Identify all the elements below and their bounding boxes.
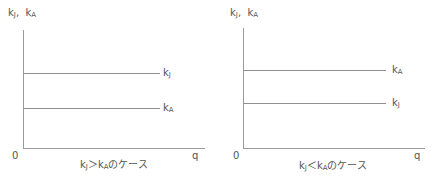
panel-kj-greater: kJ, kA kJ kA 0 q kJ＞kAのケース: [0, 0, 217, 183]
y-axis: [23, 30, 24, 149]
kj-line: [23, 73, 160, 74]
y-axis-label: kJ, kA: [8, 8, 36, 19]
y-axis-label: kJ, kA: [230, 8, 258, 19]
caption-tail: のケース: [327, 160, 367, 171]
origin-label: 0: [12, 151, 18, 161]
x-axis: [23, 148, 205, 149]
lower-line-label: kJ: [392, 98, 400, 109]
kj-line: [243, 103, 386, 104]
panel-caption: kJ＞kAのケース: [80, 160, 148, 171]
origin-label: 0: [233, 151, 239, 161]
caption-operator: ＜: [307, 160, 317, 171]
panel-caption: kJ＜kAのケース: [299, 161, 367, 172]
lower-label-sub: J: [398, 101, 400, 109]
x-axis-label: q: [414, 151, 420, 161]
caption-tail: のケース: [108, 159, 148, 170]
ka-line: [23, 108, 160, 109]
y-label-sub2: A: [253, 11, 258, 19]
panel-kj-less: kJ, kA kA kJ 0 q kJ＜kAのケース: [217, 0, 434, 183]
upper-line-label: kA: [392, 65, 403, 76]
lower-label-sub: A: [169, 106, 174, 114]
upper-label-sub: J: [169, 71, 171, 79]
y-axis: [243, 28, 244, 149]
caption-operator: ＞: [88, 159, 98, 170]
x-axis-label: q: [192, 151, 198, 161]
upper-line-label: kJ: [163, 68, 171, 79]
lower-line-label: kA: [163, 103, 174, 114]
upper-label-sub: A: [398, 68, 403, 76]
ka-line: [243, 70, 386, 71]
y-label-sub2: A: [31, 11, 36, 19]
y-label-sep: ,: [238, 7, 241, 18]
x-axis: [243, 148, 425, 149]
y-label-sep: ,: [16, 7, 19, 18]
